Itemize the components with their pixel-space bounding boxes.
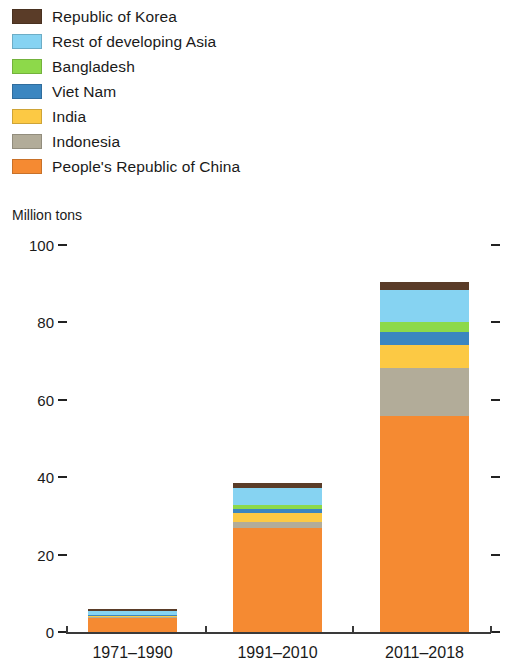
bar-segment-people-s-republic-of-china [233,528,322,632]
x-axis-tick-mark-2 [352,626,354,633]
y-axis-tick-mark-right-20 [491,554,500,556]
bar-1991-2010[interactable] [233,483,322,632]
stacked-bar-chart: 020406080100 1971–19901991–20102011–2018 [0,0,508,670]
bar-1971-1990[interactable] [88,609,177,632]
bar-segment-bangladesh [380,322,469,332]
x-axis-label-0: 1971–1990 [88,644,177,662]
y-axis-tick-label-40: 40 [8,469,54,486]
y-axis-tick-mark-left-20 [58,554,67,556]
y-axis-tick-label-80: 80 [8,314,54,331]
y-axis-tick-label-0: 0 [8,624,54,641]
y-axis-tick-label-100: 100 [8,237,54,254]
bar-segment-india [380,345,469,368]
y-axis-tick-mark-right-40 [491,476,500,478]
bar-segment-indonesia [380,368,469,416]
bar-segment-india [233,513,322,522]
x-axis-tick-mark-0 [66,626,68,633]
x-axis-tick-mark-1 [205,626,207,633]
bar-segment-republic-of-korea [380,282,469,290]
y-axis-tick-mark-right-60 [491,399,500,401]
bar-segment-rest-of-developing-asia [380,290,469,322]
x-axis-tick-mark-3 [490,626,492,633]
y-axis-tick-mark-left-100 [58,244,67,246]
y-axis-tick-label-60: 60 [8,391,54,408]
y-axis-tick-mark-right-100 [491,244,500,246]
y-axis-tick-mark-left-60 [58,399,67,401]
bar-2011-2018[interactable] [380,282,469,632]
bar-segment-viet-nam [380,332,469,345]
y-axis-tick-mark-left-80 [58,321,67,323]
x-axis-label-2: 2011–2018 [380,644,469,662]
x-axis-label-1: 1991–2010 [233,644,322,662]
y-axis-tick-mark-left-40 [58,476,67,478]
bar-segment-rest-of-developing-asia [233,488,322,505]
bar-segment-people-s-republic-of-china [380,416,469,632]
x-axis-line [66,632,491,634]
y-axis-tick-label-20: 20 [8,546,54,563]
y-axis-tick-mark-right-0 [491,631,500,633]
bar-segment-people-s-republic-of-china [88,618,177,632]
y-axis-tick-mark-right-80 [491,321,500,323]
